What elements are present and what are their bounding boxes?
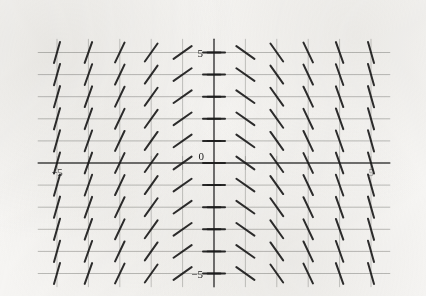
x-tick-label: 5	[368, 166, 374, 178]
y-tick-label: −5	[191, 268, 203, 280]
y-tick-label: 5	[198, 47, 204, 59]
slope-field-figure: 5−50−55	[0, 0, 426, 296]
x-tick-label: −5	[51, 166, 63, 178]
slope-field-canvas: 5−50−55	[0, 0, 426, 296]
origin-label: 0	[199, 150, 205, 162]
